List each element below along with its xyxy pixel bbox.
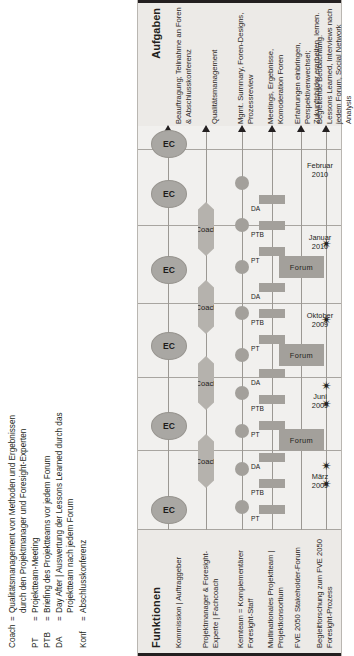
node-projektteam-bar[interactable]: [259, 479, 285, 488]
node-ec-label: EC: [163, 139, 175, 149]
node-ec[interactable]: EC: [151, 130, 187, 158]
node-projektteam-bar[interactable]: [259, 247, 285, 256]
timeline-date: Februar 2010: [300, 150, 340, 190]
node-projektteam-bar[interactable]: [259, 309, 285, 318]
node-ec[interactable]: EC: [151, 496, 187, 524]
aufgaben-item-5: Begleitende Beobachtung. Lessons Learned…: [315, 6, 353, 124]
bar-label: PTB: [251, 489, 264, 496]
legend-text: Abschlusskonferenz: [78, 402, 89, 613]
legend-equals: =: [30, 613, 41, 621]
date-year: 2010: [312, 242, 328, 251]
legend-equals: =: [78, 613, 89, 621]
date-month: März: [312, 472, 328, 481]
node-kernteam-meeting[interactable]: [235, 462, 249, 476]
bar-label: PT: [251, 345, 259, 352]
node-forum[interactable]: Forum: [279, 344, 324, 366]
bar-label: PTB: [251, 231, 264, 238]
legend-text: Qualitätsmanagement von Methoden und Erg…: [7, 402, 29, 613]
lane-arrow-icon: [297, 125, 305, 132]
funktionen-item-1: Projektmanager & Foresight-Experte | Fac…: [201, 530, 220, 648]
legend-equals: =: [42, 613, 53, 621]
aufgaben-column: Aufgaben Beauftragung; Teilnahme an Fore…: [138, 0, 341, 126]
funktionen-item-5: Begleitforschung zum FVE 2050 Foresight-…: [315, 530, 334, 648]
node-coach[interactable]: Coach: [198, 356, 214, 410]
node-projektteam-bar[interactable]: [259, 283, 285, 292]
chart-panel: Funktionen Kommission | Auftraggeber Pro…: [137, 0, 342, 656]
node-ec[interactable]: EC: [151, 412, 187, 440]
node-projektteam-bar[interactable]: [259, 335, 285, 344]
node-kernteam-meeting[interactable]: [235, 218, 249, 232]
legend-row: Coach = Qualitätsmanagement von Methoden…: [7, 402, 29, 648]
node-coach-label: Coach: [195, 225, 217, 234]
bar-label: DA: [251, 379, 260, 386]
funktionen-title: Funktionen: [150, 587, 162, 648]
node-ec[interactable]: EC: [151, 332, 187, 360]
legend-equals: =: [54, 613, 76, 621]
date-month: Juni: [313, 392, 327, 401]
node-forum[interactable]: Forum: [279, 429, 324, 451]
bar-label: DA: [251, 205, 260, 212]
legend-key: Coach: [7, 621, 29, 648]
date-year: 2009: [312, 320, 328, 329]
node-coach-label: Coach: [195, 303, 217, 312]
node-ec-label: EC: [163, 341, 175, 351]
node-kernteam-meeting[interactable]: [235, 348, 249, 362]
lane-arrow-icon: [268, 125, 276, 132]
lane-arrow-icon: [202, 125, 210, 132]
node-coach-label: Coach: [195, 379, 217, 388]
node-kernteam-meeting[interactable]: [235, 386, 249, 400]
lane-arrow-icon: [322, 125, 330, 132]
date-month: Oktober: [307, 311, 333, 320]
node-projektteam-bar[interactable]: [259, 369, 285, 378]
date-year: 2010: [312, 170, 328, 179]
aufgaben-title: Aufgaben: [150, 8, 162, 59]
funktionen-column: Funktionen Kommission | Auftraggeber Pro…: [138, 530, 341, 656]
node-kernteam-meeting[interactable]: [235, 500, 249, 514]
lane-arrow-icon: [238, 125, 246, 132]
node-coach[interactable]: Coach: [198, 434, 214, 488]
node-projektteam-bar[interactable]: [259, 395, 285, 404]
date-year: 2009: [312, 481, 328, 490]
bar-label: DA: [251, 463, 260, 470]
funktionen-item-2: Kernteam = Komplementärer Foresight-Staf…: [236, 530, 255, 648]
aufgaben-item-1: Qualitätsmanagement: [210, 6, 220, 124]
funktionen-item-4: FVE 2050 Stakeholder-Forum: [293, 530, 303, 648]
node-ec[interactable]: EC: [151, 256, 187, 284]
node-coach-label: Coach: [195, 457, 217, 466]
node-projektteam-bar[interactable]: [259, 221, 285, 230]
timeline-date: Januar 2010: [300, 222, 340, 262]
legend-text: Projektteam-Meeting: [30, 402, 41, 613]
timeline-date: Oktober 2009: [300, 300, 340, 340]
aufgaben-item-2: Mgmt. Summary, Foren-Designs, Prozessrev…: [236, 6, 255, 124]
node-projektteam-bar[interactable]: [259, 195, 285, 204]
node-kernteam-meeting[interactable]: [235, 306, 249, 320]
legend-key: PT: [30, 621, 41, 648]
node-ec-label: EC: [163, 265, 175, 275]
timeline-date: März 2009: [300, 461, 340, 501]
bar-label: PTB: [251, 405, 264, 412]
node-coach[interactable]: Coach: [198, 280, 214, 334]
node-ec-label: EC: [163, 421, 175, 431]
funktionen-item-3: Multinationales Projektteam | Projektkon…: [266, 530, 285, 648]
node-coach[interactable]: Coach: [198, 202, 214, 256]
node-projektteam-bar[interactable]: [259, 505, 285, 514]
bar-label: PTB: [251, 319, 264, 326]
node-kernteam-meeting[interactable]: [235, 260, 249, 274]
node-forum-label: Forum: [290, 262, 313, 271]
legend-key: Konf: [78, 621, 89, 648]
node-kernteam-meeting[interactable]: [235, 176, 249, 190]
node-ec[interactable]: EC: [151, 180, 187, 208]
aufgaben-rule: [138, 0, 341, 3]
legend-row: DA = Day After | Auswertung der Lessons …: [54, 402, 76, 648]
funktionen-item-0: Kommission | Auftraggeber: [174, 530, 184, 648]
node-kernteam-meeting[interactable]: [235, 424, 249, 438]
node-ec-label: EC: [163, 189, 175, 199]
legend-text: Briefing des Projektteams vor jedem Foru…: [42, 402, 53, 613]
node-forum-label: Forum: [290, 435, 313, 444]
legend-key: PTB: [42, 621, 53, 648]
legend-text: Day After | Auswertung der Lessons Learn…: [54, 402, 76, 613]
legend-row: PT = Projektteam-Meeting: [30, 402, 41, 648]
node-forum-label: Forum: [290, 350, 313, 359]
legend-row: Konf = Abschlusskonferenz: [78, 402, 89, 648]
node-projektteam-bar[interactable]: [259, 453, 285, 462]
